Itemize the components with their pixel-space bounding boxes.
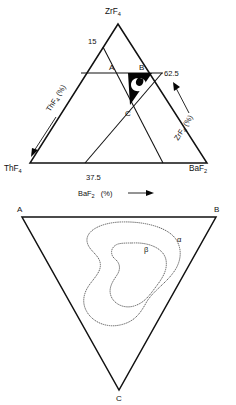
tick-label-62-5: 62.5 (164, 69, 179, 78)
tick-label-37-5: 37.5 (86, 173, 101, 182)
contour-alpha-path (84, 222, 180, 326)
axis-label-baf2: BaF2 (%) (78, 189, 112, 199)
axis-arrow-zrf4-shaft (176, 88, 189, 113)
axis-label-zrf4: ZrF4 (%) (172, 113, 196, 142)
tick-label-15: 15 (88, 37, 96, 46)
left-corner-label: ThF4 (4, 164, 22, 174)
point-label-b: B (139, 63, 144, 72)
figure-svg: ZrF4 ThF4 BaF2 15 62.5 37.5 A B C ThF4 (… (0, 0, 236, 405)
contour-beta-path (110, 243, 166, 307)
contour-label-beta: β (144, 245, 149, 254)
axis-arrow-baf2-head (146, 190, 154, 196)
vertex-label-c: C (116, 394, 122, 403)
axis-label-zrf4-group: ZrF4 (%) (172, 113, 196, 142)
inverted-triangle-outline (22, 217, 216, 390)
contour-label-alpha: α (177, 235, 182, 244)
point-label-c: C (125, 109, 131, 118)
vertex-label-b: B (214, 205, 219, 214)
right-corner-label: BaF2 (189, 164, 207, 174)
vertex-label-a: A (17, 205, 23, 214)
point-label-a: A (109, 63, 115, 72)
axis-arrow-thf4-shaft (34, 117, 56, 151)
upper-ternary-diagram: ZrF4 ThF4 BaF2 15 62.5 37.5 A B C ThF4 (… (4, 7, 207, 199)
lower-inverted-diagram: A B C α β (17, 205, 219, 403)
apex-label: ZrF4 (105, 7, 121, 17)
figure-root: ZrF4 ThF4 BaF2 15 62.5 37.5 A B C ThF4 (… (0, 0, 236, 405)
